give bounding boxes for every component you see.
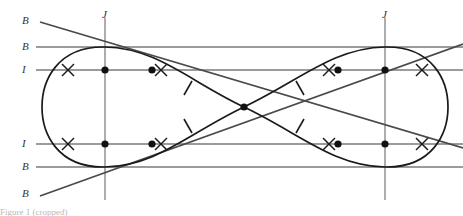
- congruence-tick-mark-2: [184, 119, 192, 133]
- diagonal-line-descending: [40, 22, 463, 148]
- axis-label-left-3: I: [22, 138, 26, 149]
- intersection-point-2: [334, 66, 341, 73]
- axis-label-top-0: J: [102, 9, 107, 20]
- axis-label-left-1: B: [22, 41, 29, 52]
- figure-caption: Figure 1 (cropped): [0, 207, 463, 216]
- intersection-point-5: [148, 140, 155, 147]
- intersection-point-8: [240, 103, 247, 110]
- intersection-point-7: [381, 140, 388, 147]
- axis-label-left-0: B: [22, 15, 29, 26]
- congruence-tick-mark-3: [296, 119, 304, 133]
- intersection-point-0: [101, 66, 108, 73]
- congruence-tick-mark-1: [296, 81, 304, 95]
- diagram-svg: [0, 0, 463, 216]
- figure-canvas: B B I I B B J J Figure 1 (cropped): [0, 0, 463, 216]
- axis-label-top-1: J: [382, 9, 387, 20]
- congruence-tick-mark-0: [184, 81, 192, 95]
- axis-label-left-2: I: [22, 64, 26, 75]
- intersection-point-3: [381, 66, 388, 73]
- axis-label-left-4: B: [22, 161, 29, 172]
- intersection-point-6: [334, 140, 341, 147]
- intersection-point-4: [101, 140, 108, 147]
- intersection-point-1: [148, 66, 155, 73]
- axis-label-left-5: B: [22, 188, 29, 199]
